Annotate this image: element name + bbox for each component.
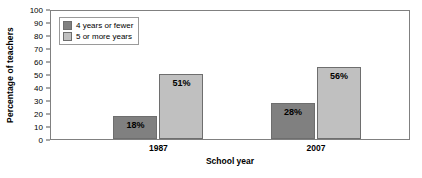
y-axis-tick-labels: 1009080706050403020100 — [20, 10, 46, 140]
bar-value-label: 51% — [172, 78, 190, 88]
bar-1987-series0: 18% — [113, 116, 157, 139]
bar-2007-series1: 56% — [317, 67, 361, 139]
y-tick-label-10: 10 — [34, 123, 43, 132]
y-tick-label-50: 50 — [34, 71, 43, 80]
legend: 4 years or fewer 5 or more years — [59, 17, 139, 45]
legend-label-1: 5 or more years — [76, 32, 132, 41]
bar-2007-series0: 28% — [271, 103, 315, 139]
y-tick-label-60: 60 — [34, 58, 43, 67]
y-tick-label-40: 40 — [34, 84, 43, 93]
y-tick-label-70: 70 — [34, 45, 43, 54]
y-tick-label-0: 0 — [39, 136, 43, 145]
bar-value-label: 18% — [126, 120, 144, 130]
x-axis-title: School year — [50, 156, 410, 166]
legend-swatch-1 — [63, 32, 72, 41]
bar-chart: Percentage of teachers 10090807060504030… — [0, 0, 422, 178]
y-axis-title: Percentage of teachers — [0, 0, 20, 150]
legend-item-0: 4 years or fewer — [63, 20, 133, 31]
bar-1987-series1: 51% — [159, 74, 203, 139]
y-tick-label-20: 20 — [34, 110, 43, 119]
y-tick-label-80: 80 — [34, 32, 43, 41]
bar-value-label: 56% — [330, 71, 348, 81]
y-axis-title-text: Percentage of teachers — [5, 27, 15, 123]
x-category-label-1987: 1987 — [149, 143, 168, 153]
bar-value-label: 28% — [284, 107, 302, 117]
y-tick-label-90: 90 — [34, 19, 43, 28]
legend-swatch-0 — [63, 21, 72, 30]
y-tick-label-30: 30 — [34, 97, 43, 106]
legend-label-0: 4 years or fewer — [76, 21, 133, 30]
legend-item-1: 5 or more years — [63, 31, 133, 42]
y-tick-label-100: 100 — [30, 6, 43, 15]
x-category-label-2007: 2007 — [306, 143, 325, 153]
plot-area: 4 years or fewer 5 or more years 18%51%2… — [50, 10, 410, 140]
